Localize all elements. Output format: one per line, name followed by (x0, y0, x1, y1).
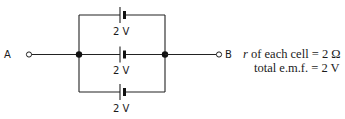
annotation-internal-resistance: r of each cell = 2 Ω (243, 47, 341, 61)
circuit-diagram: A 2 V 2 V 2 V B r of each cell = 2 Ω tot… (0, 0, 345, 119)
cell-middle-label: 2 V (113, 65, 130, 76)
terminal-a-label: A (4, 49, 11, 60)
top-branch (79, 7, 165, 23)
terminal-b-label: B (225, 49, 232, 60)
terminal-a-icon (26, 52, 31, 57)
annotation-total-emf: total e.m.f. = 2 V (254, 61, 340, 75)
bottom-branch (79, 84, 165, 100)
cell-bottom-label: 2 V (113, 103, 130, 114)
middle-branch (79, 47, 165, 63)
cell-top-label: 2 V (113, 26, 130, 37)
terminal-b-icon (216, 52, 221, 57)
junction-left-icon (76, 51, 82, 57)
